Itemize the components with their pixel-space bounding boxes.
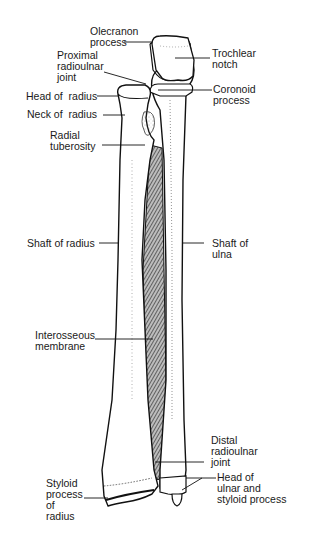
label-shaft-of-radius: Shaft of radius	[27, 238, 95, 249]
ulnar-styloid-shape	[172, 494, 182, 506]
label-olecranon-process: Olecranon process	[90, 26, 138, 48]
label-styloid-process-of-radius: Styloid process of radius	[46, 478, 83, 522]
label-proximal-radioulnar-joint: Proximal radioulnar joint	[57, 50, 104, 83]
label-distal-radioulnar-joint: Distal radioulnar joint	[211, 435, 258, 468]
label-trochlear-notch: Trochlear notch	[212, 48, 256, 70]
label-radial-tuberosity: Radial tuberosity	[50, 130, 96, 152]
label-head-of-radius: Head of radius	[26, 91, 97, 102]
label-head-of-ulna-and-styloid-process: Head of ulnar and styloid process	[217, 472, 286, 505]
label-coronoid-process: Coronoid process	[213, 84, 256, 106]
label-shaft-of-ulna: Shaft of ulna	[212, 238, 248, 260]
label-interosseous-membrane: Interosseous membrane	[35, 330, 95, 352]
label-neck-of-radius: Neck of radius	[27, 109, 97, 120]
